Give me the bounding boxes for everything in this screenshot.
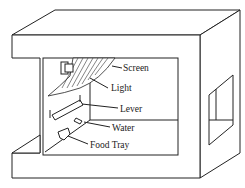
box-outer xyxy=(12,10,240,178)
label-light: Light xyxy=(111,83,132,93)
label-water: Water xyxy=(112,123,135,133)
label-food-tray: Food Tray xyxy=(90,140,130,150)
label-screen: Screen xyxy=(123,63,149,73)
skinner-box-diagram: Screen Light Lever Water Food Tray xyxy=(0,0,245,188)
label-lever: Lever xyxy=(120,104,143,114)
light-fixture xyxy=(61,62,73,74)
